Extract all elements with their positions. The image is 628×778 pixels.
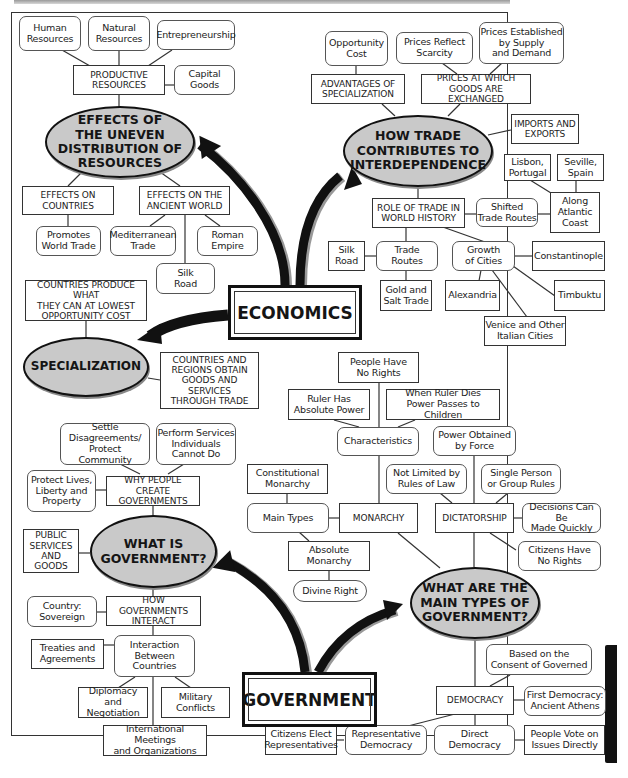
oval-main-types-government: WHAT ARE THE MAIN TYPES OF GOVERNMENT? xyxy=(410,567,540,639)
node-capital-goods: Capital Goods xyxy=(174,65,235,95)
node-how-governments-interact: HOW GOVERNMENTS INTERACT xyxy=(106,596,201,626)
node-treaties: Treaties and Agreements xyxy=(31,639,104,669)
node-role-of-trade: ROLE OF TRADE IN WORLD HISTORY xyxy=(372,198,465,228)
node-people-no-rights: People Have No Rights xyxy=(338,352,419,383)
oval-specialization: SPECIALIZATION xyxy=(23,337,149,397)
node-military-conflicts: Military Conflicts xyxy=(161,687,230,718)
node-shifted-trade-routes: Shifted Trade Routes xyxy=(476,198,538,227)
node-divine-right: Divine Right xyxy=(293,580,367,602)
node-first-democracy: First Democracy: Ancient Athens xyxy=(524,686,606,716)
node-ruler-dies: When Ruler Dies Power Passes to Children xyxy=(386,389,500,420)
node-trade-routes: Trade Routes xyxy=(376,241,438,271)
oval-what-is-government: WHAT IS GOVERNMENT? xyxy=(90,515,217,588)
hub-government: GOVERNMENT xyxy=(242,672,377,727)
node-characteristics: Characteristics xyxy=(337,427,419,456)
node-advantages-specialization: ADVANTAGES OF SPECIALIZATION xyxy=(311,74,405,104)
node-opportunity-cost: Opportunity Cost xyxy=(325,31,388,66)
node-lisbon: Lisbon, Portugal xyxy=(504,154,551,181)
node-countries-obtain: COUNTRIES AND REGIONS OBTAIN GOODS AND S… xyxy=(160,352,259,409)
node-gold-salt-trade: Gold and Salt Trade xyxy=(380,280,432,311)
node-ruler-absolute-power: Ruler Has Absolute Power xyxy=(288,389,370,420)
node-natural-resources: Natural Resources xyxy=(88,16,150,51)
oval-uneven-distribution: EFFECTS OF THE UNEVEN DISTRIBUTION OF RE… xyxy=(45,106,195,178)
node-silk-road-ancient: Silk Road xyxy=(156,263,215,294)
node-single-person-rules: Single Person or Group Rules xyxy=(481,464,561,494)
node-constantinople: Constantinople xyxy=(532,241,605,271)
hub-economics: ECONOMICS xyxy=(228,285,362,340)
node-countries-produce: COUNTRIES PRODUCE WHAT THEY CAN AT LOWES… xyxy=(25,280,147,321)
node-democracy: DEMOCRACY xyxy=(436,686,514,715)
node-main-types: Main Types xyxy=(247,503,329,533)
node-not-limited-by-law: Not Limited by Rules of Law xyxy=(386,464,467,494)
node-dictatorship: DICTATORSHIP xyxy=(435,503,514,533)
node-silk-road-trade: Silk Road xyxy=(328,241,365,271)
node-interaction-between-countries: Interaction Between Countries xyxy=(114,635,195,677)
node-timbuktu: Timbuktu xyxy=(554,280,605,311)
node-monarchy: MONARCHY xyxy=(339,503,418,533)
node-mediterranean-trade: Mediterranean Trade xyxy=(110,226,176,256)
node-people-vote: People Vote on Issues Directly xyxy=(524,725,605,755)
node-atlantic-coast: Along Atlantic Coast xyxy=(550,192,600,233)
node-international-meetings: International Meetings and Organizations xyxy=(103,725,207,756)
node-constitutional-monarchy: Constitutional Monarchy xyxy=(247,464,328,494)
node-protect-lives: Protect Lives, Liberty and Property xyxy=(27,470,96,512)
node-growth-of-cities: Growth of Cities xyxy=(452,241,515,271)
node-absolute-monarchy: Absolute Monarchy xyxy=(288,541,370,571)
node-alexandria: Alexandria xyxy=(445,280,500,311)
node-country-sovereign: Country: Sovereign xyxy=(27,596,97,627)
node-human-resources: Human Resources xyxy=(19,16,81,51)
node-entrepreneurship: Entrepreneurship xyxy=(157,20,235,50)
node-public-services: PUBLIC SERVICES AND GOODS xyxy=(23,529,79,573)
node-diplomacy: Diplomacy and Negotiation xyxy=(78,687,148,718)
node-productive-resources: PRODUCTIVE RESOURCES xyxy=(73,65,165,95)
node-effects-on-countries: EFFECTS ON COUNTRIES xyxy=(22,186,114,215)
node-imports-exports: IMPORTS AND EXPORTS xyxy=(511,114,579,144)
node-citizens-no-rights: Citizens Have No Rights xyxy=(518,541,601,571)
node-representative-democracy: Representative Democracy xyxy=(345,725,427,755)
node-prices-exchanged: PRICES AT WHICH GOODS ARE EXCHANGED xyxy=(421,74,531,104)
oval-trade-interdependence: HOW TRADE CONTRIBUTES TO INTERDEPENDENCE xyxy=(343,115,493,187)
node-why-create-governments: WHY PEOPLE CREATE GOVERNMENTS xyxy=(106,476,200,506)
node-decisions-quickly: Decisions Can Be Made Quickly xyxy=(522,503,601,533)
node-prices-scarcity: Prices Reflect Scarcity xyxy=(396,32,473,64)
node-prices-supply-demand: Prices Established by Supply and Demand xyxy=(479,22,564,64)
node-citizens-elect: Citizens Elect Representatives xyxy=(265,725,337,755)
node-power-by-force: Power Obtained by Force xyxy=(433,426,516,456)
node-effects-ancient-world: EFFECTS ON THE ANCIENT WORLD xyxy=(139,186,230,215)
node-consent-of-governed: Based on the Consent of Governed xyxy=(486,644,592,675)
node-perform-services: Perform Services Individuals Cannot Do xyxy=(156,423,236,465)
node-direct-democracy: Direct Democracy xyxy=(434,725,515,755)
node-settle-disagreements: Settle Disagreements/ Protect Community xyxy=(60,423,150,465)
node-seville: Seville, Spain xyxy=(557,154,604,181)
node-roman-empire: Roman Empire xyxy=(197,226,258,256)
node-venice-italian-cities: Venice and Other Italian Cities xyxy=(484,316,566,346)
node-promotes-world-trade: Promotes World Trade xyxy=(36,226,101,256)
